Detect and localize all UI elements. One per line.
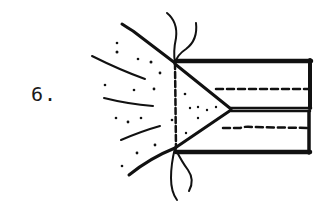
thread-bottom bbox=[171, 148, 192, 200]
diagram-figure: 6. bbox=[0, 0, 336, 219]
tip-triangle bbox=[175, 64, 231, 148]
strip-upper bbox=[176, 60, 311, 108]
fiber-strokes bbox=[92, 56, 160, 140]
strip-end-illustration bbox=[0, 0, 336, 219]
fan-outline bbox=[122, 24, 175, 175]
fold-line-dashed bbox=[175, 63, 176, 148]
stitch-line-lower bbox=[223, 127, 308, 128]
thread-top bbox=[167, 13, 196, 63]
